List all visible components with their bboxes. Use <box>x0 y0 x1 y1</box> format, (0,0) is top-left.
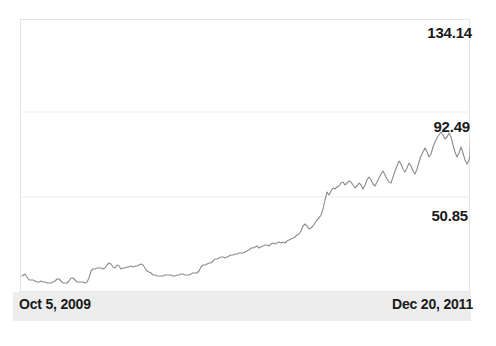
y-axis-label-low: 50.85 <box>431 207 468 224</box>
y-axis-label-high: 134.14 <box>427 24 472 41</box>
price-line <box>22 19 470 283</box>
gridlines <box>20 112 470 197</box>
x-axis-end-date: Dec 20, 2011 <box>392 296 473 312</box>
stock-price-chart: 134.14 92.49 50.85 Oct 5, 2009 Dec 20, 2… <box>0 0 496 346</box>
x-axis-start-date: Oct 5, 2009 <box>19 296 91 312</box>
y-axis-label-mid: 92.49 <box>433 118 470 135</box>
chart-canvas <box>20 19 470 292</box>
